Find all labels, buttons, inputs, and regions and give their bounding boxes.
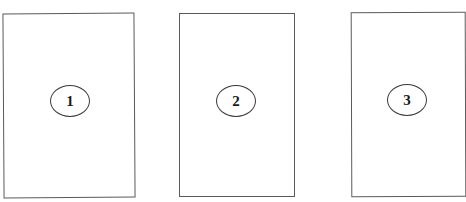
panel-2-number: 2 — [232, 94, 240, 109]
panel-1-number: 1 — [66, 94, 74, 109]
panel-3-number-oval: 3 — [387, 84, 427, 116]
panel-2-number-oval: 2 — [216, 85, 256, 117]
panel-3-number: 3 — [403, 93, 411, 108]
panel-1-number-oval: 1 — [50, 85, 90, 117]
